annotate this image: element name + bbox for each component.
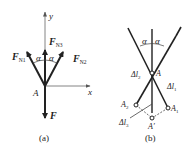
node-a-prime xyxy=(150,116,154,120)
node-a xyxy=(150,71,154,75)
figure-canvas: y x A FN3 FN1 FN2 F α α (a) xyxy=(0,0,193,158)
label-alpha-left: α xyxy=(36,53,41,63)
label-dl2: Δl2 xyxy=(130,70,141,80)
label-fn2: FN2 xyxy=(72,53,87,65)
bar-2-upper xyxy=(176,27,181,36)
label-f: F xyxy=(49,110,57,121)
label-dl3: Δl3 xyxy=(118,118,129,128)
label-fn3: FN3 xyxy=(48,36,63,48)
dl3-leader xyxy=(130,104,152,118)
dash-a2-aprime xyxy=(136,105,152,118)
node-a2 xyxy=(134,103,138,107)
caption-a: (a) xyxy=(39,133,49,143)
force-fn2-arrow xyxy=(45,52,63,86)
caption-b: (b) xyxy=(145,133,156,143)
label-dl1: Δl1 xyxy=(166,82,177,92)
label-a: A xyxy=(32,88,39,98)
figure-a: y x A FN3 FN1 FN2 F α α (a) xyxy=(11,11,92,143)
label-a2: A2 xyxy=(120,100,129,110)
figure-b: α α A Δl2 Δl1 Δl3 A2 A1 A′ (b) xyxy=(118,27,181,143)
label-a1: A1 xyxy=(170,104,179,114)
label-alpha-b-left: α xyxy=(142,36,147,46)
label-alpha-right: α xyxy=(49,53,54,63)
bar-1-upper xyxy=(128,28,133,38)
label-fn1: FN1 xyxy=(11,51,26,63)
label-y: y xyxy=(48,11,53,21)
node-a1 xyxy=(166,106,170,110)
label-x: x xyxy=(87,87,92,97)
dash-a1-aprime xyxy=(152,108,168,118)
label-a-prime: A′ xyxy=(147,122,155,131)
label-alpha-b-right: α xyxy=(155,36,160,46)
label-b-a: A xyxy=(155,69,161,78)
